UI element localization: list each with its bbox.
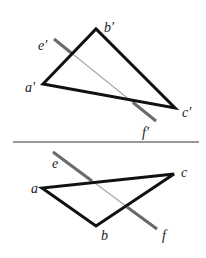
line-ef-top-visible-upper: [53, 152, 92, 181]
label-e-prime: e′: [38, 38, 48, 53]
top-view: a b c e f: [31, 152, 188, 243]
triangle-front: [43, 29, 175, 108]
label-f-prime: f′: [142, 125, 150, 140]
triangle-top: [42, 174, 174, 226]
projection-diagram: a′ b′ c′ e′ f′ a b c e f: [0, 0, 206, 258]
label-b: b: [101, 228, 108, 243]
label-e: e: [52, 156, 58, 171]
label-b-prime: b′: [104, 20, 115, 35]
label-a: a: [31, 181, 38, 196]
label-a-prime: a′: [25, 80, 36, 95]
label-c: c: [181, 165, 188, 180]
label-f: f: [162, 228, 168, 243]
line-ef-front-visible-upper: [54, 39, 72, 54]
front-view: a′ b′ c′ e′ f′: [25, 20, 192, 140]
label-c-prime: c′: [182, 105, 192, 120]
line-ef-top-visible-lower: [127, 207, 157, 229]
